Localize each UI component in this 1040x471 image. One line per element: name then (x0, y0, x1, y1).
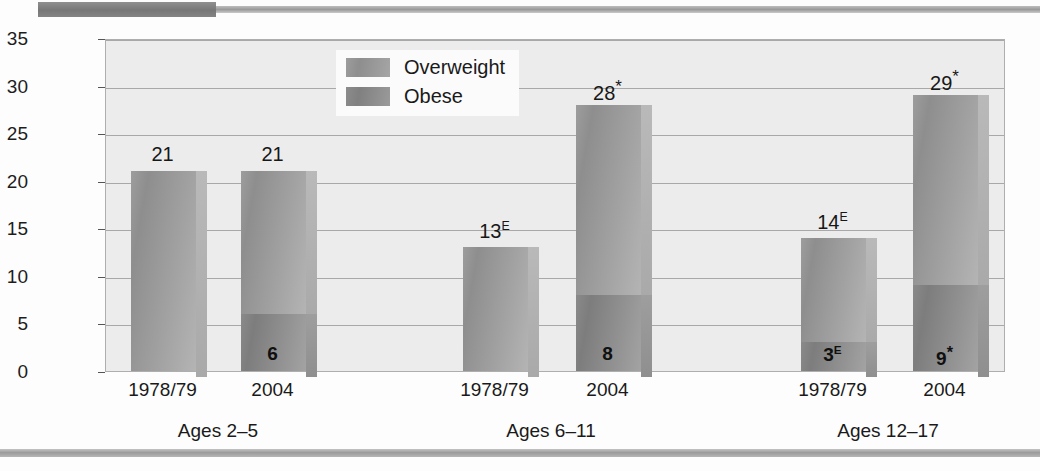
bar-segment-overweight[interactable] (463, 247, 528, 371)
bar-side-face-overweight (866, 238, 877, 349)
bar-total-label: 13E (425, 219, 565, 243)
value-suffix: E (501, 219, 509, 233)
x-axis-group-label: Ages 6–11 (441, 420, 661, 442)
y-axis-tick-label: 25 (0, 123, 28, 145)
y-axis-tick-label: 20 (0, 171, 28, 193)
value-suffix: E (834, 343, 842, 356)
bar-segment-overweight[interactable] (913, 95, 978, 285)
gridline (106, 135, 1004, 136)
chart-page: Percentage 05101520253035 Overweight Obe… (0, 0, 1040, 471)
x-axis-tick-label: 2004 (193, 379, 353, 401)
y-axis-tick-mark (98, 277, 105, 278)
gridline (106, 40, 1004, 41)
legend-swatch-obese-icon (346, 87, 390, 106)
value-suffix: * (615, 77, 622, 96)
value-suffix: * (947, 343, 953, 361)
bar-column[interactable] (241, 171, 306, 371)
footer-rule-decoration (0, 449, 1040, 457)
x-axis-group-label: Ages 2–5 (108, 420, 328, 442)
legend-label-overweight: Overweight (404, 56, 505, 79)
bar-total-label: 29* (875, 67, 1015, 95)
legend-item-overweight: Overweight (346, 56, 505, 79)
bar-segment-overweight[interactable] (131, 171, 196, 371)
bar-segment-overweight[interactable] (576, 105, 641, 295)
bar-side-face-overweight (641, 105, 652, 301)
legend-swatch-overweight-icon (346, 58, 390, 77)
y-axis-tick-label: 0 (0, 361, 28, 383)
header-rule-decoration (216, 6, 1040, 13)
bar-total-label: 21 (203, 143, 343, 166)
y-axis-tick-label: 5 (0, 313, 28, 335)
bar-column[interactable] (131, 171, 196, 371)
y-axis-tick-mark (98, 229, 105, 230)
bar-side-face-overweight (306, 171, 317, 320)
y-axis-tick-mark (98, 324, 105, 325)
bar-column[interactable] (576, 105, 641, 371)
y-axis-tick-mark (98, 182, 105, 183)
y-axis-tick-label: 10 (0, 266, 28, 288)
y-axis-tick-mark (98, 372, 105, 373)
bar-side-face-overweight (978, 95, 989, 291)
x-axis-group-label: Ages 12–17 (778, 420, 998, 442)
value-suffix: E (839, 210, 847, 224)
y-axis-tick-label: 30 (0, 76, 28, 98)
bar-segment-overweight[interactable] (801, 238, 866, 343)
y-axis-tick-label: 35 (0, 28, 28, 50)
y-axis-tick-mark (98, 39, 105, 40)
bar-obese-label: 6 (203, 343, 343, 365)
bar-total-label: 14E (763, 210, 903, 234)
x-axis-tick-label: 2004 (865, 379, 1025, 401)
header-block-decoration (38, 2, 216, 17)
legend-label-obese: Obese (404, 85, 463, 108)
chart-legend: Overweight Obese (336, 50, 519, 116)
bar-obese-label: 8 (538, 343, 678, 365)
bar-column[interactable] (463, 247, 528, 371)
y-axis-tick-mark (98, 87, 105, 88)
value-suffix: * (952, 67, 959, 86)
x-axis-tick-label: 2004 (528, 379, 688, 401)
bar-segment-overweight[interactable] (241, 171, 306, 314)
bar-column[interactable] (913, 95, 978, 371)
y-axis-tick-label: 15 (0, 218, 28, 240)
legend-item-obese: Obese (346, 85, 505, 108)
bar-total-label: 28* (538, 77, 678, 105)
y-axis-tick-mark (98, 134, 105, 135)
bar-obese-label: 9* (875, 343, 1015, 370)
